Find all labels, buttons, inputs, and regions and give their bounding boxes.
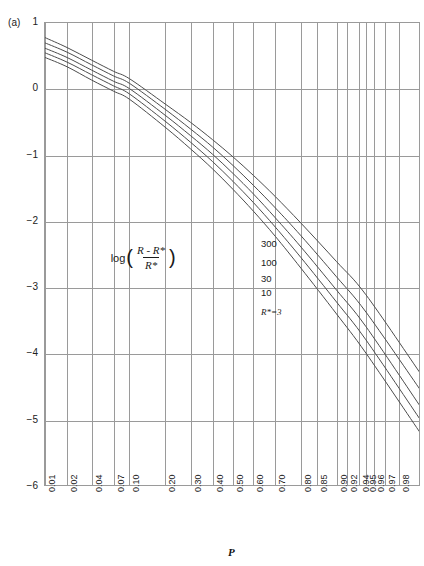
curve-layer xyxy=(45,23,420,486)
x-tick-label: 0.20 xyxy=(168,474,177,492)
x-tick-label: 0.30 xyxy=(194,474,203,492)
x-tick-label: 0.10 xyxy=(132,474,141,492)
curve-100 xyxy=(45,43,420,391)
x-tick-label: 0.90 xyxy=(340,474,349,492)
x-tick-label: 0.80 xyxy=(304,474,313,492)
y-tick-label: −5 xyxy=(12,415,38,425)
x-tick-label: 0.96 xyxy=(377,474,386,492)
x-tick-label: 0.40 xyxy=(216,474,225,492)
x-tick-label: 0.02 xyxy=(70,474,79,492)
curve-label-100: 100 xyxy=(261,257,277,268)
plot-area: log ( R - R* R* ) 3001003010R*=3 xyxy=(44,22,420,486)
x-tick-label: 0.70 xyxy=(278,474,287,492)
y-axis-formula-label: log ( R - R* R* ) xyxy=(111,244,176,271)
y-tick-label: 0 xyxy=(12,83,38,93)
x-axis-title: P xyxy=(228,546,235,558)
x-tick-label: 0.60 xyxy=(256,474,265,492)
curve-10 xyxy=(45,53,420,421)
curve-label-r-3: R*=3 xyxy=(261,307,282,317)
curve-r-3 xyxy=(45,57,420,434)
x-tick-label: 0.97 xyxy=(388,474,397,492)
y-tick-label: −2 xyxy=(12,216,38,226)
x-tick-label: 0.04 xyxy=(95,474,104,492)
x-tick-label: 0.07 xyxy=(117,474,126,492)
curve-label-30: 30 xyxy=(261,273,272,284)
close-paren: ) xyxy=(169,247,176,267)
y-tick-label: −1 xyxy=(12,150,38,160)
fraction-numerator: R - R* xyxy=(135,244,167,257)
x-tick-label: 0.50 xyxy=(236,474,245,492)
figure-container: (a) log ( R - R* R* ) 3001003010R*=3 10−… xyxy=(0,0,424,566)
fraction-denominator: R* xyxy=(143,257,159,271)
x-tick-label: 0.98 xyxy=(402,474,411,492)
curve-label-300: 300 xyxy=(261,238,277,249)
open-paren: ( xyxy=(126,247,133,267)
curve-30 xyxy=(45,48,420,407)
x-tick-label: 0.85 xyxy=(320,474,329,492)
y-tick-label: −3 xyxy=(12,282,38,292)
y-tick-label: −6 xyxy=(12,481,38,491)
x-tick-label: 0.92 xyxy=(350,474,359,492)
y-tick-label: −4 xyxy=(12,348,38,358)
curve-label-10: 10 xyxy=(261,287,272,298)
log-text: log xyxy=(111,252,126,264)
fraction: R - R* R* xyxy=(135,244,167,271)
x-tick-label: 0.01 xyxy=(48,474,57,492)
y-tick-label: 1 xyxy=(12,17,38,27)
